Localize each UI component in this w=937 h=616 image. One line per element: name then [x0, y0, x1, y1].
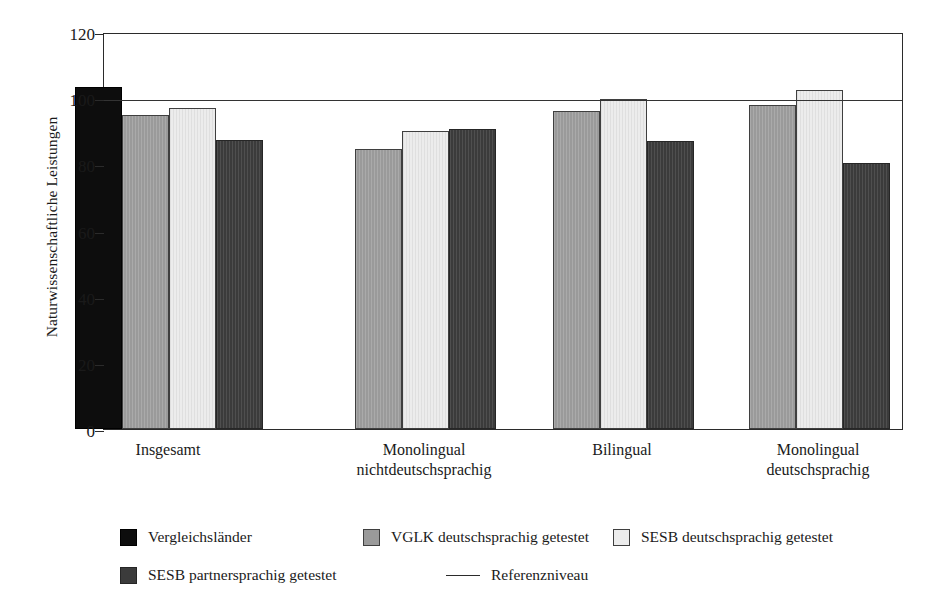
chart-figure: Naturwissenschaftliche Leistungen 020406…	[0, 0, 937, 616]
bar-0-3	[216, 140, 263, 429]
legend-item-vglk-deutschsprachig-getestet[interactable]: VGLK deutschsprachig getestet	[363, 528, 589, 546]
y-tick-mark	[95, 431, 104, 432]
bar-2-2	[600, 99, 647, 429]
x-axis-label-line2: deutschsprachig	[668, 460, 937, 480]
legend-item-vergleichsl-nder[interactable]: Vergleichsländer	[120, 528, 252, 546]
bar-2-3	[647, 141, 694, 429]
legend-swatch-icon	[120, 529, 137, 546]
bar-0-2	[169, 108, 216, 429]
y-tick-label: 120	[70, 26, 96, 43]
x-axis-label-line1: Monolingual	[777, 441, 860, 458]
legend-label: VGLK deutschsprachig getestet	[391, 528, 589, 546]
x-axis-label-0: Insgesamt	[18, 440, 318, 460]
bar-0-0	[75, 87, 122, 429]
y-tick-mark	[95, 233, 104, 234]
bar-0-1	[122, 115, 169, 429]
y-tick-mark	[95, 299, 104, 300]
legend-row-1: SESB partnersprachig getestetReferenzniv…	[120, 556, 920, 594]
y-tick-label: 20	[78, 356, 95, 373]
bars-layer	[104, 34, 902, 429]
legend-swatch-icon	[613, 529, 630, 546]
bar-1-1	[355, 149, 402, 429]
x-axis-label-line1: Monolingual	[383, 441, 466, 458]
legend-label: SESB partnersprachig getestet	[148, 566, 337, 584]
bar-2-1	[553, 111, 600, 429]
reference-line	[104, 100, 902, 101]
x-axis-label-line1: Insgesamt	[136, 441, 201, 458]
plot-area: 020406080100120	[103, 33, 903, 430]
bar-1-3	[449, 129, 496, 429]
chart-legend: VergleichsländerVGLK deutschsprachig get…	[120, 518, 920, 594]
legend-label: SESB deutschsprachig getestet	[641, 528, 833, 546]
legend-label: Referenzniveau	[491, 566, 588, 584]
legend-label: Vergleichsländer	[148, 528, 252, 546]
bar-3-3	[843, 163, 890, 429]
x-axis-label-line1: Bilingual	[592, 441, 652, 458]
y-tick-mark	[95, 34, 104, 35]
legend-swatch-icon	[120, 567, 137, 584]
y-tick-mark	[95, 365, 104, 366]
legend-line-icon	[446, 575, 480, 576]
bar-3-2	[796, 90, 843, 429]
legend-row-0: VergleichsländerVGLK deutschsprachig get…	[120, 518, 920, 556]
bar-3-1	[749, 105, 796, 429]
y-tick-label: 80	[78, 158, 95, 175]
y-tick-label: 40	[78, 290, 95, 307]
legend-item-sesb-partnersprachig-getestet[interactable]: SESB partnersprachig getestet	[120, 566, 337, 584]
y-axis-title: Naturwissenschaftliche Leistungen	[43, 27, 61, 427]
y-tick-mark	[95, 100, 104, 101]
y-tick-mark	[95, 166, 104, 167]
y-tick-label: 100	[70, 92, 96, 109]
x-axis-label-line2: nichtdeutschsprachig	[274, 460, 574, 480]
y-tick-label: 0	[87, 423, 96, 440]
legend-item-referenzniveau[interactable]: Referenzniveau	[446, 566, 588, 584]
x-axis-label-3: Monolingualdeutschsprachig	[668, 440, 937, 481]
legend-item-sesb-deutschsprachig-getestet[interactable]: SESB deutschsprachig getestet	[613, 528, 833, 546]
y-tick-label: 60	[78, 224, 95, 241]
bar-1-2	[402, 131, 449, 429]
legend-swatch-icon	[363, 529, 380, 546]
